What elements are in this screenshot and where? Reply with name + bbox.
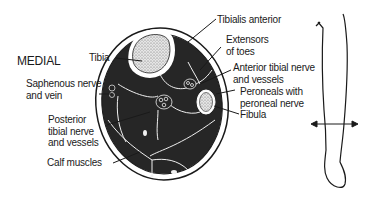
cross-section [86, 20, 238, 189]
label-calf-muscles: Calf muscles [47, 157, 102, 169]
label-fibula: Fibula [240, 109, 266, 121]
anterior-tibial-vessels [184, 79, 196, 89]
leg-silhouette [316, 14, 347, 187]
label-posterior-tibial: Posterior tibial nerve and vessels [48, 114, 99, 149]
label-saphenous-nerve-vein: Saphenous nerve and vein [26, 78, 101, 101]
leg-cross-section-diagram [0, 0, 368, 202]
label-extensors-of-toes: Extensors of toes [226, 34, 269, 57]
posterior-tibial-vessels [156, 95, 172, 109]
label-tibialis-anterior: Tibialis anterior [217, 14, 281, 26]
label-peroneals: Peroneals with peroneal nerve [240, 86, 304, 109]
label-medial: MEDIAL [17, 56, 60, 68]
label-tibia: Tibia [89, 52, 109, 64]
label-anterior-tibial: Anterior tibial nerve and vessels [233, 62, 315, 85]
